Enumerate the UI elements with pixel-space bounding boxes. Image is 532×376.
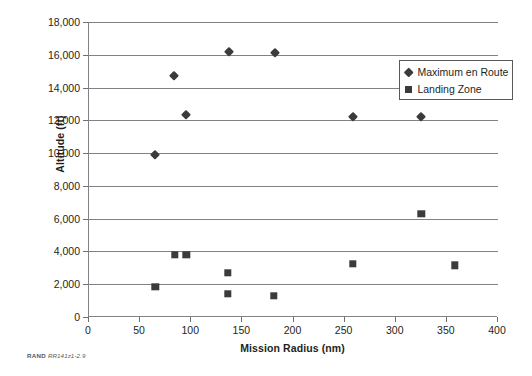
gridline <box>89 251 498 252</box>
y-axis-tick-label: 4,000 <box>24 246 80 257</box>
y-axis-tick-label: 14,000 <box>24 83 80 94</box>
x-axis-title: Mission Radius (nm) <box>88 342 497 354</box>
legend: Maximum en Route Landing Zone <box>399 60 513 100</box>
gridline <box>89 120 498 121</box>
diamond-marker-icon <box>403 67 413 77</box>
data-point-diamond <box>181 109 191 119</box>
x-axis-tick <box>139 317 140 322</box>
y-axis-tick-label: 8,000 <box>24 181 80 192</box>
data-point-square <box>171 251 178 258</box>
gridline <box>89 186 498 187</box>
data-point-square <box>224 290 231 297</box>
data-point-square <box>349 260 356 267</box>
y-axis-tick-label: 6,000 <box>24 214 80 225</box>
x-axis-tick-label: 400 <box>467 325 527 336</box>
data-point-square <box>270 292 277 299</box>
y-axis-tick-label: 0 <box>24 312 80 323</box>
y-axis-tick-label: 10,000 <box>24 148 80 159</box>
x-axis-tick <box>88 317 89 322</box>
x-axis-tick <box>446 317 447 322</box>
gridline <box>89 22 498 23</box>
gridline <box>89 284 498 285</box>
legend-label: Maximum en Route <box>417 67 508 78</box>
x-axis-tick <box>497 317 498 322</box>
data-point-square <box>182 251 189 258</box>
x-axis-tick <box>241 317 242 322</box>
data-point-diamond <box>150 150 160 160</box>
legend-label: Landing Zone <box>417 84 481 95</box>
data-point-square <box>451 262 458 269</box>
square-marker-icon <box>405 86 412 93</box>
y-axis-tick-label: 2,000 <box>24 279 80 290</box>
legend-item-landing-zone: Landing Zone <box>405 81 507 98</box>
data-point-square <box>224 269 231 276</box>
y-axis-tick-label: 16,000 <box>24 50 80 61</box>
caption-organization: RAND <box>27 352 46 359</box>
data-point-diamond <box>270 48 280 58</box>
x-axis-tick <box>190 317 191 322</box>
data-point-diamond <box>224 47 234 57</box>
x-axis-tick <box>293 317 294 322</box>
x-axis-tick <box>344 317 345 322</box>
figure-container: Altitude (ft) 02,0004,0006,0008,00010,00… <box>0 0 532 376</box>
data-point-square <box>152 283 159 290</box>
figure-caption: RAND RR141z1-2.9 <box>27 352 85 359</box>
data-point-square <box>418 210 425 217</box>
data-point-diamond <box>169 71 179 81</box>
legend-item-maximum-en-route: Maximum en Route <box>405 64 507 81</box>
y-axis-tick-label: 18,000 <box>24 17 80 28</box>
x-axis-tick <box>395 317 396 322</box>
gridline <box>89 55 498 56</box>
y-axis-tick-label: 12,000 <box>24 115 80 126</box>
gridline <box>89 219 498 220</box>
plot-area: Maximum en Route Landing Zone <box>88 22 497 317</box>
caption-figure-id: RR141z1-2.9 <box>48 352 86 359</box>
